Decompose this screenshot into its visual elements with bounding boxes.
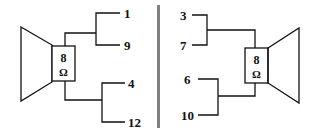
left-impedance-unit: Ω [59,66,68,78]
right-speaker [192,15,299,115]
terminal-label-1: 1 [124,6,131,21]
right-speaker-cone-icon [268,28,299,103]
left-impedance-value: 8 [61,51,67,65]
right-impedance-value: 8 [254,53,260,67]
left-wire-top [65,33,96,46]
left-speaker [21,13,125,122]
terminal-label-7: 7 [180,38,187,53]
center-divider [157,5,160,128]
left-lead-4-12 [102,83,125,122]
terminal-label-4: 4 [128,76,135,91]
terminal-label-6: 6 [184,72,191,87]
terminal-label-3: 3 [180,8,187,23]
left-lead-1-9 [96,13,120,45]
terminal-label-10: 10 [181,108,194,123]
left-speaker-cone-icon [21,27,52,101]
terminal-label-9: 9 [124,38,131,53]
left-wire-bottom [65,81,102,100]
right-impedance-unit: Ω [252,68,261,80]
right-lead-6-10 [198,79,218,115]
right-wire-bottom [218,83,255,96]
right-lead-3-7 [192,15,207,45]
terminal-label-12: 12 [128,115,141,130]
diagram-svg: 8 Ω 1 9 4 12 8 Ω 3 7 6 10 [0,0,315,136]
right-wire-top [207,30,255,48]
speaker-wiring-diagram: 8 Ω 1 9 4 12 8 Ω 3 7 6 10 [0,0,315,136]
